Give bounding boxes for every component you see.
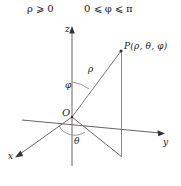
y-axis-line bbox=[22, 120, 160, 133]
z-axis-arrowhead bbox=[69, 26, 75, 34]
point-label-p: P(ρ, θ, φ) bbox=[124, 41, 168, 51]
diagram-canvas bbox=[0, 0, 181, 186]
xy-projection-segment bbox=[72, 117, 122, 157]
axis-label-z: z bbox=[65, 24, 70, 34]
axis-label-y: y bbox=[163, 137, 168, 147]
y-axis-arrowhead bbox=[158, 130, 166, 136]
origin-marker bbox=[71, 116, 73, 118]
azimuthal-angle-label-theta: θ bbox=[74, 136, 79, 146]
radius-label-rho: ρ bbox=[88, 64, 93, 74]
polar-angle-label-phi: φ bbox=[65, 80, 71, 90]
phi-arc bbox=[72, 82, 89, 89]
origin-label: O bbox=[62, 107, 70, 118]
x-axis-arrowhead bbox=[15, 151, 23, 158]
axis-label-x: x bbox=[8, 151, 13, 161]
spherical-coordinates-figure: ρ ⩾ 0 0 ⩽ φ ⩽ π z x y O ρ φ θ P(ρ, θ, φ) bbox=[0, 0, 181, 186]
point-p-marker bbox=[119, 49, 122, 52]
